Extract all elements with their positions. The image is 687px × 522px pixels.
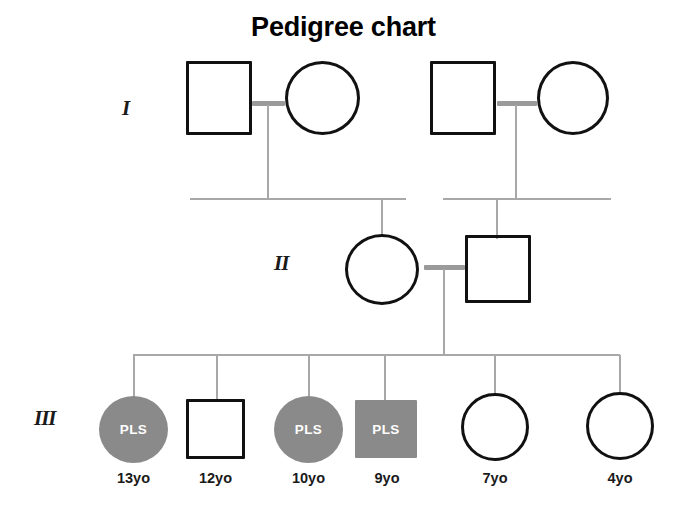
sibship-line-gen-iii	[133, 354, 620, 356]
sibship-line-gen-ii-right	[443, 198, 611, 200]
generation-label-ii: II	[274, 251, 288, 276]
sibship-drop-ii-1	[381, 199, 383, 236]
sibship-drop-iii-6	[619, 355, 621, 393]
pedigree-node-i-1[interactable]	[186, 61, 252, 135]
pedigree-node-iii-1[interactable]: PLS	[99, 396, 168, 463]
pedigree-node-iii-5[interactable]	[461, 393, 529, 461]
node-status-text: PLS	[295, 422, 322, 437]
sibship-drop-ii-2	[496, 199, 498, 239]
pedigree-node-iii-4[interactable]: PLS	[355, 400, 417, 458]
descent-line-couple-i-1	[267, 105, 269, 199]
pedigree-node-iii-6[interactable]	[586, 392, 654, 460]
generation-label-iii: III	[34, 406, 56, 431]
pedigree-node-iii-2[interactable]	[186, 399, 245, 459]
node-status-text: PLS	[372, 422, 399, 437]
pedigree-node-i-3[interactable]	[430, 61, 496, 135]
pedigree-node-ii-2[interactable]	[465, 235, 531, 303]
descent-line-couple-ii-1	[443, 269, 445, 355]
age-label-iii-6: 4yo	[586, 470, 654, 486]
node-status-text: PLS	[120, 422, 147, 437]
pedigree-node-i-4[interactable]	[537, 61, 609, 135]
generation-label-i: I	[122, 96, 129, 121]
descent-line-couple-i-2	[515, 105, 517, 199]
pedigree-node-iii-3[interactable]: PLS	[274, 396, 343, 463]
pedigree-node-i-2[interactable]	[285, 61, 360, 135]
sibship-drop-iii-2	[216, 355, 218, 401]
age-label-iii-5: 7yo	[461, 470, 529, 486]
sibship-drop-iii-4	[384, 355, 386, 401]
page-title: Pedigree chart	[0, 12, 687, 43]
mating-line-i-3-i-4	[497, 101, 537, 106]
sibship-drop-iii-1	[133, 355, 135, 400]
pedigree-node-ii-1[interactable]	[345, 234, 419, 305]
age-label-iii-2: 12yo	[185, 470, 246, 486]
sibship-line-gen-ii-left	[190, 198, 406, 200]
age-label-iii-3: 10yo	[274, 470, 343, 486]
sibship-drop-iii-5	[494, 355, 496, 395]
pedigree-chart: Pedigree chart I II III PLS	[0, 0, 687, 522]
sibship-drop-iii-3	[308, 355, 310, 400]
age-label-iii-1: 13yo	[99, 470, 168, 486]
age-label-iii-4: 9yo	[356, 470, 418, 486]
